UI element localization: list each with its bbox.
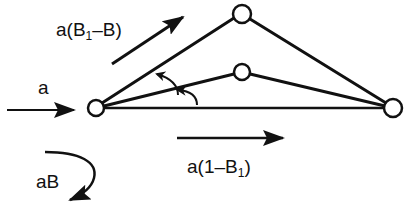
label-lower-flow-base: a(1–B <box>187 156 238 177</box>
label-input-text: a <box>38 77 49 98</box>
node-left <box>88 100 104 116</box>
label-upper-flow-tail: –B) <box>92 19 122 40</box>
label-upper-flow: a(B1–B) <box>56 20 122 42</box>
label-upper-flow-base: a(B <box>56 19 86 40</box>
label-loss-text: aB <box>36 171 59 192</box>
node-middle <box>234 64 250 80</box>
label-loss: aB <box>36 172 59 191</box>
node-top <box>233 5 251 23</box>
label-input-a: a <box>38 78 49 97</box>
angle-arrow-lower-icon <box>178 90 197 105</box>
node-right <box>384 99 402 117</box>
label-lower-flow: a(1–B1) <box>187 157 251 179</box>
label-lower-flow-tail: ) <box>244 156 250 177</box>
